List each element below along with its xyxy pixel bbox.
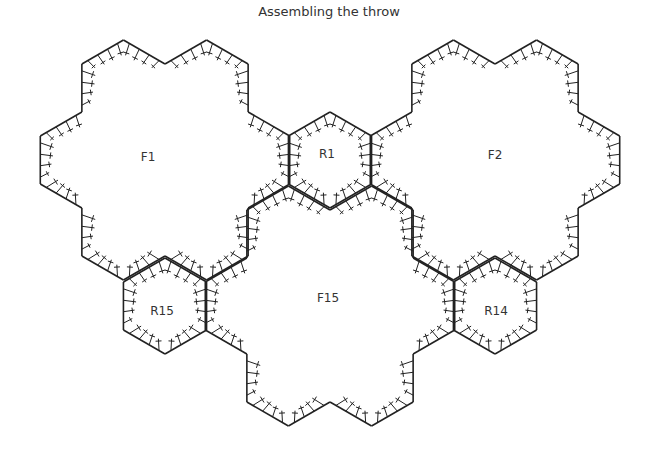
motif-label-f15: F15: [317, 291, 339, 305]
motif-label-r14: R14: [484, 304, 508, 318]
motif-f1: [40, 40, 289, 280]
motif-label-r1: R1: [319, 147, 335, 161]
motif-label-f1: F1: [141, 150, 156, 164]
motif-label-r15: R15: [150, 304, 174, 318]
throw-assembly-diagram: [0, 0, 658, 462]
motif-f15: [205, 186, 454, 426]
motif-label-f2: F2: [488, 148, 503, 162]
